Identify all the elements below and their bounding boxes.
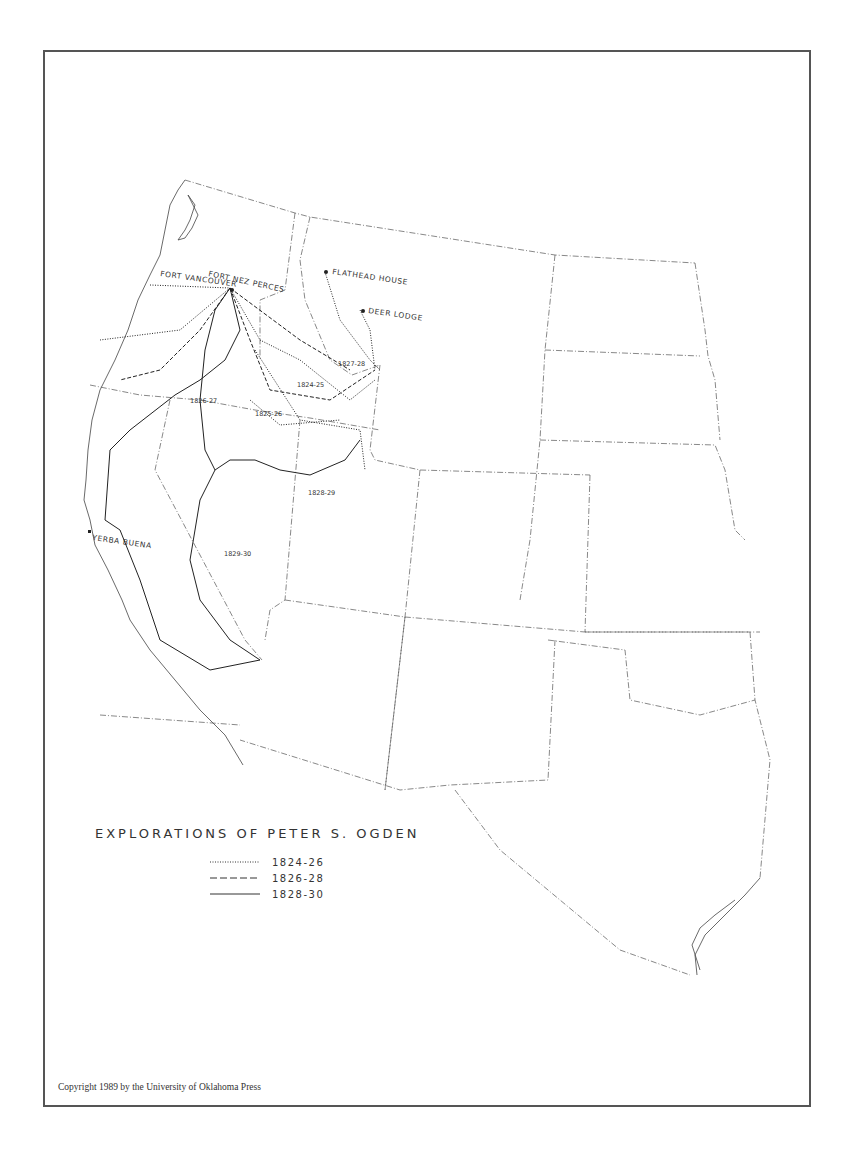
- label-1825-26: 1825-26: [255, 410, 282, 418]
- legend-item-solid: 1828-30: [210, 886, 324, 902]
- label-flathead-house: FLATHEAD HOUSE: [332, 267, 409, 287]
- label-deer-lodge: DEER LODGE: [368, 306, 424, 323]
- copyright-notice: Copyright 1989 by the University of Okla…: [58, 1082, 261, 1092]
- route-1824-26: [100, 272, 380, 470]
- dotted-line-icon: [210, 859, 260, 865]
- label-1828-29: 1828-29: [308, 489, 335, 497]
- legend-item-dashed: 1826-28: [210, 870, 324, 886]
- legend-item-dotted: 1824-26: [210, 854, 324, 870]
- label-1824-25: 1824-25: [297, 381, 324, 389]
- label-1827-28: 1827-28: [338, 360, 365, 368]
- label-yerba-buena: YERBA BUENA: [91, 533, 153, 550]
- solid-line-icon: [210, 891, 260, 897]
- pacific-coastline: [84, 180, 243, 765]
- label-1826-27: 1826-27: [190, 397, 217, 405]
- western-us-map: FORT VANCOUVER FORT NEZ PERCES FLATHEAD …: [0, 0, 841, 1156]
- gulf-coastline: [695, 878, 760, 975]
- dashed-line-icon: [210, 875, 260, 881]
- route-1826-28: [120, 288, 375, 400]
- canada-border: [185, 180, 695, 263]
- route-1828-30: [105, 288, 360, 670]
- label-1829-30: 1829-30: [224, 550, 251, 558]
- legend: 1824-26 1826-28 1828-30: [210, 854, 324, 902]
- map-title: EXPLORATIONS OF PETER S. OGDEN: [95, 826, 419, 841]
